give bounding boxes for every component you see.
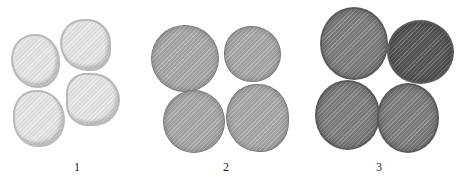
group-label-3: 3 bbox=[369, 160, 389, 175]
specimen bbox=[377, 83, 439, 153]
specimen bbox=[320, 7, 388, 80]
specimen bbox=[163, 90, 225, 153]
specimen bbox=[13, 90, 65, 147]
group-label-2: 2 bbox=[216, 160, 236, 175]
specimen bbox=[315, 80, 380, 150]
group-label-1: 1 bbox=[67, 160, 87, 175]
specimen bbox=[226, 84, 289, 152]
specimen bbox=[66, 73, 120, 126]
specimen bbox=[224, 26, 281, 82]
specimen bbox=[60, 19, 111, 71]
specimen bbox=[11, 34, 60, 88]
specimen bbox=[387, 20, 454, 84]
specimen bbox=[151, 25, 219, 92]
